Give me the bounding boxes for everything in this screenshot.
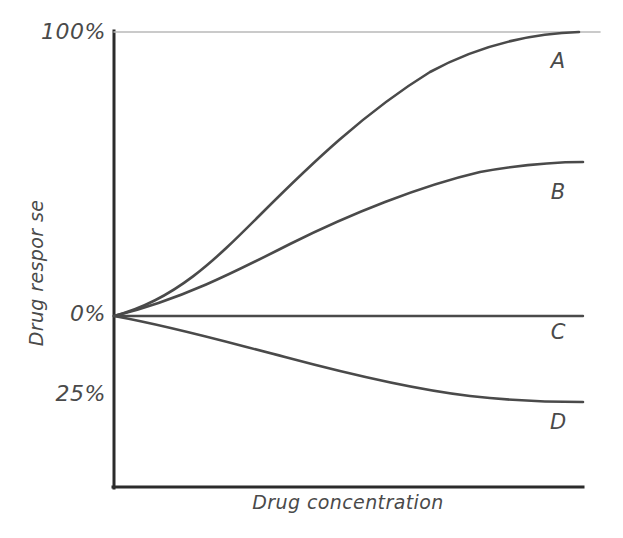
y-tick-label-100: 100% — [10, 21, 106, 43]
y-axis-title: Drug respor se — [27, 158, 46, 388]
series-label-b: B — [546, 182, 570, 203]
y-axis-title-wrapper: Drug respor se — [27, 158, 49, 388]
curve-d — [114, 316, 583, 402]
series-label-d: D — [546, 412, 570, 433]
drug-response-chart: 100% 0% 25% A B C D Drug concentration D… — [0, 0, 623, 538]
chart-canvas — [0, 0, 623, 538]
curve-a — [114, 32, 579, 316]
x-axis-title: Drug concentration — [113, 493, 583, 512]
axis-lines — [113, 31, 600, 488]
curve-b — [114, 162, 583, 316]
y-tick-label-25: 25% — [10, 383, 106, 405]
series-label-a: A — [546, 51, 570, 72]
series-label-c: C — [546, 322, 570, 343]
